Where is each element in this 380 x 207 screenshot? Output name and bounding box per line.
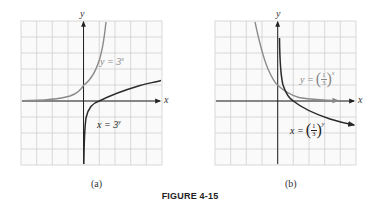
panel-a-log-label-exponent: y	[118, 119, 121, 125]
panel-a-exp-label-text: y = 3	[100, 56, 121, 67]
panel-b-sublabel: (b)	[285, 178, 297, 189]
figure-caption: FIGURE 4-15	[0, 191, 380, 201]
panel-b-y-label: y	[276, 8, 280, 19]
panel-a-y-label: y	[80, 8, 84, 19]
panel-b-exp-label: y = ( 1 3 ) x	[300, 70, 335, 88]
panel-b-grid	[215, 21, 356, 165]
panel-a-grid	[21, 21, 162, 165]
panel-b-x-label: x	[358, 94, 362, 105]
fraction-numerator: 1	[312, 123, 316, 130]
panel-b-log-label-text: x =	[290, 125, 304, 136]
panel-a-sublabel: (a)	[91, 178, 102, 189]
panel-a-log-label-text: x = 3	[97, 119, 118, 130]
panel-b-exp-label-exponent: x	[332, 70, 335, 76]
fraction-numerator: 1	[322, 72, 326, 79]
panel-b-log-label-exponent: y	[322, 121, 325, 127]
panel-b-exp-label-text: y =	[300, 74, 314, 85]
panel-b-log-label: x = ( 1 3 ) y	[290, 121, 325, 139]
panel-a-exp-label: y = 3x	[100, 56, 124, 67]
panel-a-log-label: x = 3y	[97, 119, 121, 130]
panel-a-x-label: x	[164, 94, 168, 105]
figure-canvas	[0, 0, 380, 207]
panel-a-exp-label-exponent: x	[121, 56, 124, 62]
